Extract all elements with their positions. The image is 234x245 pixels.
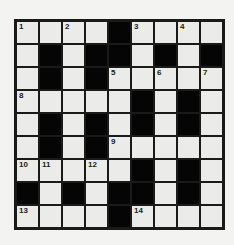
clue-number: 9 bbox=[111, 138, 115, 146]
crossword-cell[interactable] bbox=[131, 136, 154, 159]
crossword-cell[interactable] bbox=[177, 67, 200, 90]
crossword-cell[interactable]: 5 bbox=[108, 67, 131, 90]
crossword-cell[interactable]: 7 bbox=[200, 67, 223, 90]
clue-number: 1 bbox=[19, 23, 23, 31]
clue-number: 8 bbox=[19, 92, 23, 100]
black-square bbox=[85, 136, 108, 159]
black-square bbox=[131, 159, 154, 182]
crossword-cell[interactable] bbox=[85, 182, 108, 205]
clue-number: 7 bbox=[203, 69, 207, 77]
black-square bbox=[16, 182, 39, 205]
black-square bbox=[131, 90, 154, 113]
crossword-cell[interactable] bbox=[200, 182, 223, 205]
clue-number: 3 bbox=[134, 23, 138, 31]
crossword-cell[interactable] bbox=[177, 44, 200, 67]
crossword-cell[interactable]: 10 bbox=[16, 159, 39, 182]
crossword-cell[interactable]: 14 bbox=[131, 205, 154, 228]
crossword-cell[interactable] bbox=[154, 205, 177, 228]
black-square bbox=[177, 182, 200, 205]
crossword-cell[interactable] bbox=[62, 113, 85, 136]
black-square bbox=[131, 182, 154, 205]
crossword-cell[interactable] bbox=[16, 44, 39, 67]
black-square bbox=[108, 182, 131, 205]
crossword-cell[interactable]: 3 bbox=[131, 21, 154, 44]
crossword-cell[interactable] bbox=[16, 136, 39, 159]
crossword-cell[interactable] bbox=[154, 21, 177, 44]
crossword-cell[interactable] bbox=[62, 44, 85, 67]
black-square bbox=[177, 113, 200, 136]
crossword-cell[interactable] bbox=[16, 67, 39, 90]
crossword-cell[interactable] bbox=[62, 205, 85, 228]
black-square bbox=[108, 205, 131, 228]
crossword-cell[interactable] bbox=[16, 113, 39, 136]
clue-number: 13 bbox=[19, 207, 28, 215]
clue-number: 12 bbox=[88, 161, 97, 169]
crossword-cell[interactable]: 11 bbox=[39, 159, 62, 182]
crossword-cell[interactable] bbox=[131, 44, 154, 67]
black-square bbox=[154, 44, 177, 67]
black-square bbox=[39, 67, 62, 90]
black-square bbox=[39, 113, 62, 136]
crossword-cell[interactable] bbox=[62, 136, 85, 159]
crossword-cell[interactable] bbox=[62, 90, 85, 113]
crossword-cell[interactable] bbox=[154, 182, 177, 205]
crossword-cell[interactable] bbox=[200, 21, 223, 44]
crossword-cell[interactable] bbox=[62, 159, 85, 182]
black-square bbox=[85, 67, 108, 90]
black-square bbox=[39, 136, 62, 159]
crossword-cell[interactable] bbox=[131, 67, 154, 90]
black-square bbox=[39, 44, 62, 67]
crossword-cell[interactable]: 6 bbox=[154, 67, 177, 90]
clue-number: 10 bbox=[19, 161, 28, 169]
clue-number: 2 bbox=[65, 23, 69, 31]
crossword-cell[interactable] bbox=[39, 21, 62, 44]
crossword-cell[interactable] bbox=[154, 159, 177, 182]
crossword-cell[interactable] bbox=[200, 136, 223, 159]
black-square bbox=[108, 44, 131, 67]
crossword-cell[interactable]: 1 bbox=[16, 21, 39, 44]
crossword-cell[interactable] bbox=[200, 90, 223, 113]
crossword-cell[interactable] bbox=[39, 205, 62, 228]
crossword-cell[interactable] bbox=[200, 159, 223, 182]
crossword-cell[interactable] bbox=[85, 90, 108, 113]
crossword-cell[interactable]: 8 bbox=[16, 90, 39, 113]
crossword-cell[interactable] bbox=[200, 205, 223, 228]
crossword-cell[interactable] bbox=[39, 182, 62, 205]
crossword-cell[interactable] bbox=[108, 90, 131, 113]
crossword-cell[interactable]: 13 bbox=[16, 205, 39, 228]
crossword-cell[interactable] bbox=[154, 136, 177, 159]
black-square bbox=[177, 90, 200, 113]
crossword-cell[interactable]: 9 bbox=[108, 136, 131, 159]
crossword-cell[interactable] bbox=[177, 205, 200, 228]
crossword-cell[interactable] bbox=[108, 113, 131, 136]
crossword-cell[interactable] bbox=[85, 21, 108, 44]
clue-number: 14 bbox=[134, 207, 143, 215]
crossword-cell[interactable] bbox=[62, 67, 85, 90]
clue-number: 4 bbox=[180, 23, 184, 31]
black-square bbox=[62, 182, 85, 205]
black-square bbox=[85, 44, 108, 67]
crossword-cell[interactable]: 12 bbox=[85, 159, 108, 182]
crossword-cell[interactable] bbox=[85, 205, 108, 228]
black-square bbox=[131, 113, 154, 136]
crossword-cell[interactable] bbox=[108, 159, 131, 182]
crossword-cell[interactable] bbox=[177, 136, 200, 159]
black-square bbox=[200, 44, 223, 67]
crossword-cell[interactable] bbox=[154, 113, 177, 136]
crossword-cell[interactable]: 4 bbox=[177, 21, 200, 44]
crossword-cell[interactable] bbox=[200, 113, 223, 136]
black-square bbox=[177, 159, 200, 182]
black-square bbox=[108, 21, 131, 44]
clue-number: 11 bbox=[42, 161, 50, 169]
crossword-grid: 1234567891011121314 bbox=[14, 19, 225, 230]
crossword-cell[interactable] bbox=[39, 90, 62, 113]
crossword-cell[interactable]: 2 bbox=[62, 21, 85, 44]
crossword-cell[interactable] bbox=[154, 90, 177, 113]
clue-number: 6 bbox=[157, 69, 161, 77]
clue-number: 5 bbox=[111, 69, 115, 77]
black-square bbox=[85, 113, 108, 136]
